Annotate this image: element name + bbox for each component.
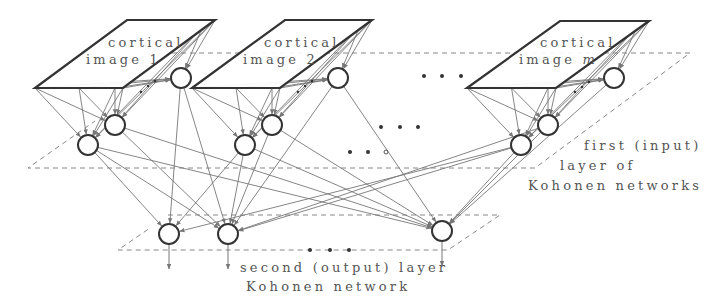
first-layer-label-line2: layer of: [560, 158, 636, 173]
node-n1b: [105, 115, 125, 135]
first-layer-label-line3: Kohonen networks: [528, 178, 702, 193]
network-nodes: [78, 68, 624, 244]
node-n1a: [171, 68, 191, 88]
node-nmb: [538, 115, 558, 135]
image-1-label-line1: cortical: [108, 35, 184, 50]
node-nma: [604, 68, 624, 88]
image-m-label-line1: cortical: [540, 35, 616, 50]
image-m-label-line2: image m: [519, 52, 598, 67]
node-o1: [159, 224, 179, 244]
image-2-label-line1: cortical: [264, 35, 340, 50]
node-n1c: [78, 135, 98, 155]
node-om: [432, 221, 452, 241]
ellipsis-dots: [140, 74, 590, 252]
output-layer-label-line1: second (output) layer: [240, 260, 448, 275]
node-n2a: [328, 68, 348, 88]
node-nmc: [511, 135, 531, 155]
node-n2c: [235, 135, 255, 155]
node-o2: [218, 224, 238, 244]
image-2-label-line2: image 2: [243, 52, 318, 67]
first-layer-label-line1: first (input): [584, 138, 701, 153]
output-layer-label-line2: Kohonen network: [246, 279, 410, 294]
image-m-label-text: image: [519, 52, 583, 67]
image-m-index: m: [583, 52, 599, 67]
image-1-label-line2: image 1: [86, 52, 161, 67]
node-n2b: [262, 115, 282, 135]
